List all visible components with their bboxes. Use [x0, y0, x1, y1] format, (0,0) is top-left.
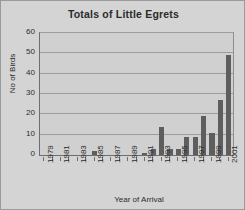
x-axis-tick-label: 1993	[164, 145, 172, 163]
x-axis-tick-mark	[211, 157, 212, 161]
gridline	[40, 93, 233, 94]
x-axis-tick-mark	[177, 157, 178, 161]
y-axis-tick-label: 10	[13, 130, 35, 138]
gridline	[40, 32, 233, 33]
x-axis-tick-label: 1997	[198, 145, 206, 163]
y-axis-tick-label: 40	[13, 69, 35, 77]
x-axis-tick-mark	[144, 157, 145, 161]
y-axis-tick-label: 20	[13, 109, 35, 117]
x-axis-tick-label: 1995	[181, 145, 189, 163]
x-axis-tick-mark	[127, 157, 128, 161]
chart-title: Totals of Little Egrets	[1, 8, 245, 20]
x-axis-tick-label: 2001	[231, 145, 239, 163]
x-axis-title: Year of Arrival	[39, 195, 239, 204]
x-axis-tick-label: 1999	[215, 145, 223, 163]
x-axis-tick-label: 1981	[63, 145, 71, 163]
y-axis-tick-label: 30	[13, 89, 35, 97]
gridline	[40, 113, 233, 114]
x-axis-tick-mark	[94, 157, 95, 161]
y-axis-tick-label: 50	[13, 48, 35, 56]
x-axis-tick-mark	[110, 157, 111, 161]
bar	[226, 55, 231, 155]
y-axis-tick-label: 0	[13, 150, 35, 158]
x-axis-tick-label: 1989	[131, 145, 139, 163]
x-axis-tick-mark	[161, 157, 162, 161]
x-axis-tick-label: 1985	[97, 145, 105, 163]
x-axis-tick-mark	[77, 157, 78, 161]
x-axis-tick-label: 1979	[47, 145, 55, 163]
y-axis-tick-labels: 0102030405060	[11, 32, 35, 156]
x-axis-tick-mark	[43, 157, 44, 161]
x-axis-tick-label: 1991	[147, 145, 155, 163]
x-axis-tick-label: 1987	[114, 145, 122, 163]
y-axis-tick-label: 60	[13, 28, 35, 36]
x-axis-tick-mark	[60, 157, 61, 161]
x-axis-tick-label: 1983	[80, 145, 88, 163]
gridline	[40, 52, 233, 53]
x-axis-tick-mark	[228, 157, 229, 161]
plot-area	[39, 32, 234, 156]
gridline	[40, 73, 233, 74]
x-axis-tick-mark	[194, 157, 195, 161]
chart-figure: Totals of Little Egrets No of Birds 0102…	[0, 0, 245, 210]
